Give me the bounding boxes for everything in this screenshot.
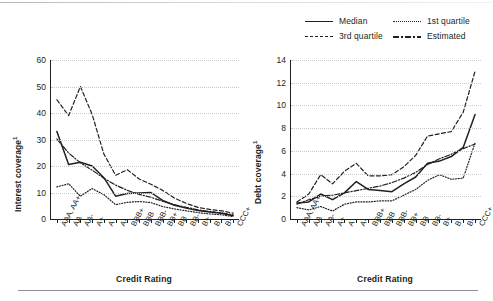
series-line-3rd-quartile: [297, 71, 475, 202]
x-tick: [57, 219, 58, 223]
y-axis-ticks-right: 02468101214: [262, 52, 286, 222]
y-tick-label: 50: [22, 83, 46, 91]
gridline: [291, 196, 481, 197]
gridline: [291, 151, 481, 152]
y-tick-label: 60: [22, 56, 46, 64]
y-tick-label: 20: [22, 162, 46, 170]
x-axis-title-left: Credit Rating: [50, 274, 238, 284]
gridline: [51, 87, 239, 88]
x-axis-labels-right: AAA, AA+AAAA-A+AA-BBB+BBBBBB-BB+BBBB-B+B…: [291, 224, 481, 276]
top-divider: [0, 2, 493, 3]
y-tick-label: 8: [262, 124, 286, 132]
gridline: [51, 166, 239, 167]
y-tick-label: 6: [262, 147, 286, 155]
x-tick-label: A+: [336, 216, 348, 228]
y-tick-label: 10: [262, 101, 286, 109]
plot-area-left: AAA, AA+AAAA-A+AA-BBB+BBBBBB-BB+BBBB-B+B…: [50, 60, 239, 220]
x-tick-label: A+: [95, 216, 107, 228]
y-tick-label: 10: [22, 189, 46, 197]
chart-legend: Median 1st quartile 3rd quartile Estimat…: [305, 14, 490, 44]
gridline: [291, 105, 481, 106]
x-tick-label: B+: [442, 216, 454, 228]
legend-item-median: Median: [305, 17, 393, 26]
legend-swatch-dashdot-icon: [393, 32, 421, 41]
legend-swatch-solid-icon: [305, 17, 333, 26]
legend-item-1st-quartile: 1st quartile: [393, 17, 470, 26]
y-tick-label: 0: [22, 215, 46, 223]
gridline: [51, 193, 239, 194]
bottom-divider: [18, 290, 478, 291]
legend-swatch-dashed-icon: [305, 32, 333, 41]
legend-row-2: 3rd quartile Estimated: [305, 29, 490, 44]
gridline: [51, 60, 239, 61]
legend-item-3rd-quartile: 3rd quartile: [305, 32, 393, 41]
x-tick-label: AA: [72, 215, 84, 228]
series-line-median: [57, 132, 233, 216]
x-tick-label: B+: [201, 216, 213, 228]
gridline: [291, 174, 481, 175]
legend-label-estimated: Estimated: [427, 32, 466, 41]
gridline: [51, 140, 239, 141]
x-tick-label: B-: [466, 217, 477, 227]
x-tick: [297, 219, 298, 223]
legend-label-3rd-quartile: 3rd quartile: [339, 32, 383, 41]
legend-item-estimated: Estimated: [393, 32, 466, 41]
y-axis-title-left-superscript: 1: [12, 136, 18, 139]
gridline: [51, 113, 239, 114]
legend-label-1st-quartile: 1st quartile: [427, 17, 470, 26]
y-axis-ticks-left: 0102030405060: [22, 52, 46, 222]
gridline: [291, 83, 481, 84]
y-tick-label: 4: [262, 170, 286, 178]
plot-area-right: AAA, AA+AAAA-A+AA-BBB+BBBBBB-BB+BBBB-B+B…: [290, 60, 481, 220]
y-tick-label: 40: [22, 109, 46, 117]
legend-row-1: Median 1st quartile: [305, 14, 490, 29]
y-tick-label: 0: [262, 215, 286, 223]
y-tick-label: 2: [262, 192, 286, 200]
gridline: [291, 128, 481, 129]
x-tick-label: BB: [419, 215, 431, 228]
legend-label-median: Median: [339, 17, 367, 26]
x-axis-title-right: Credit Rating: [290, 274, 480, 284]
gridline: [291, 60, 481, 61]
x-tick-label: A-: [119, 217, 130, 227]
x-axis-labels-left: AAA, AA+AAAA-A+AA-BBB+BBBBBB-BB+BBBB-B+B…: [51, 224, 239, 276]
y-tick-label: 14: [262, 56, 286, 64]
y-tick-label: 30: [22, 136, 46, 144]
y-tick-label: 12: [262, 79, 286, 87]
y-axis-title-right-superscript: 1: [252, 141, 258, 144]
series-line-estimated: [57, 139, 233, 215]
chart-panel-interest-coverage: Interest coverage1 0102030405060 AAA, AA…: [10, 52, 245, 282]
legend-swatch-dotted-icon: [393, 17, 421, 26]
chart-panel-debt-coverage: Debt coverage1 02468101214 AAA, AA+AAAA-…: [250, 52, 488, 282]
x-tick-label: AA: [312, 215, 324, 228]
